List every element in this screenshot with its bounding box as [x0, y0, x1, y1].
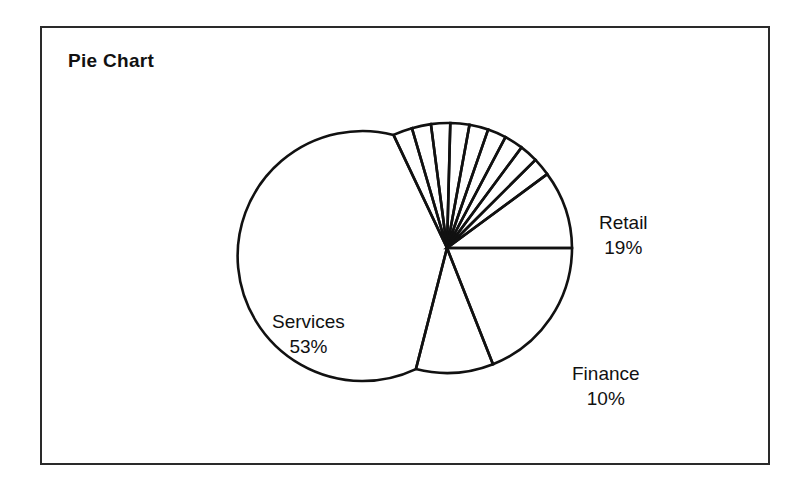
pie-label-finance: Finance 10% — [572, 361, 640, 411]
pie-slice-retail — [447, 248, 572, 364]
pie-label-finance-name: Finance — [572, 361, 640, 386]
pie-label-retail-name: Retail — [599, 210, 648, 235]
pie-label-retail-percent: 19% — [599, 235, 648, 260]
pie-label-services-name: Services — [272, 309, 345, 334]
chart-frame: Pie Chart — [40, 26, 770, 465]
pie-slice-finance — [416, 248, 493, 373]
screenshot-root: Pie Chart — [0, 0, 805, 490]
pie-label-services: Services 53% — [272, 309, 345, 359]
pie-chart-stage: Retail 19% Services 53% Finance 10% — [42, 28, 768, 463]
pie-label-services-percent: 53% — [272, 334, 345, 359]
pie-label-finance-percent: 10% — [572, 386, 640, 411]
pie-label-retail: Retail 19% — [599, 210, 648, 260]
pie-chart-svg — [42, 28, 772, 467]
